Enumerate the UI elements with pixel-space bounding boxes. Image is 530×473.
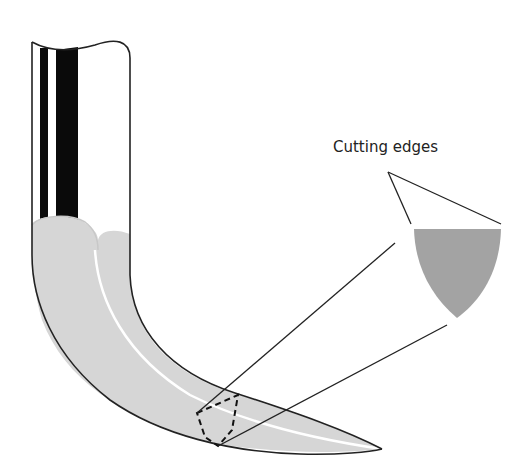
projection-line-upper xyxy=(197,243,395,413)
needle-diagram: Cutting edges xyxy=(0,0,530,473)
needle-body xyxy=(32,216,382,452)
shaft-stripe-thick xyxy=(56,47,78,228)
needle-illustration xyxy=(0,0,530,473)
pointer-line-left xyxy=(388,172,411,224)
pointer-line-right xyxy=(388,172,501,224)
cross-section xyxy=(414,229,501,318)
shaft-stripe-thin xyxy=(40,48,48,223)
cutting-edges-label: Cutting edges xyxy=(333,138,438,156)
